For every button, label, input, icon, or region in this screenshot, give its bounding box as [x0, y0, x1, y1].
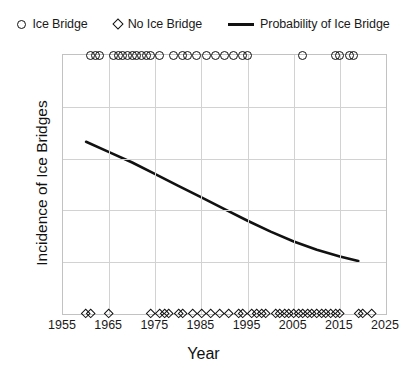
data-point-ice-bridge [202, 51, 211, 60]
probability-curve [63, 55, 386, 314]
data-point-ice-bridge [146, 51, 155, 60]
legend-entry-ice-bridge: Ice Bridge [17, 17, 87, 31]
y-axis-title: Incidence of Ice Bridges [33, 58, 51, 308]
data-point-ice-bridge [95, 51, 104, 60]
legend-label-no-ice-bridge: No Ice Bridge [128, 17, 202, 31]
data-point-ice-bridge [220, 51, 229, 60]
chart-legend: Ice Bridge No Ice Bridge Probability of … [0, 12, 407, 36]
legend-label-probability: Probability of Ice Bridge [260, 17, 390, 31]
data-point-ice-bridge [349, 51, 358, 60]
plot-inner [63, 55, 386, 314]
gridline-vertical [294, 55, 295, 314]
data-point-ice-bridge [211, 51, 220, 60]
gridline-vertical [109, 55, 110, 314]
data-point-ice-bridge [335, 51, 344, 60]
diamond-icon [112, 18, 123, 29]
data-point-ice-bridge [298, 51, 307, 60]
data-point-ice-bridge [192, 51, 201, 60]
data-point-ice-bridge [183, 51, 192, 60]
legend-entry-no-ice-bridge: No Ice Bridge [114, 17, 202, 31]
data-point-ice-bridge [229, 51, 238, 60]
gridline-horizontal [63, 210, 386, 211]
gridline-vertical [340, 55, 341, 314]
legend-entry-probability: Probability of Ice Bridge [228, 17, 390, 31]
gridline-horizontal [63, 107, 386, 108]
data-point-ice-bridge [155, 51, 164, 60]
legend-label-ice-bridge: Ice Bridge [32, 17, 87, 31]
gridline-vertical [248, 55, 249, 314]
gridline-vertical [201, 55, 202, 314]
chart-figure: Ice Bridge No Ice Bridge Probability of … [0, 0, 407, 379]
gridline-horizontal [63, 262, 386, 263]
gridline-vertical [155, 55, 156, 314]
plot-area [62, 54, 387, 315]
x-tick-label: 2025 [355, 318, 407, 332]
x-axis-title: Year [0, 345, 407, 363]
circle-icon [17, 20, 26, 29]
line-icon [228, 23, 254, 26]
data-point-ice-bridge [243, 51, 252, 60]
gridline-horizontal [63, 159, 386, 160]
data-point-ice-bridge [169, 51, 178, 60]
